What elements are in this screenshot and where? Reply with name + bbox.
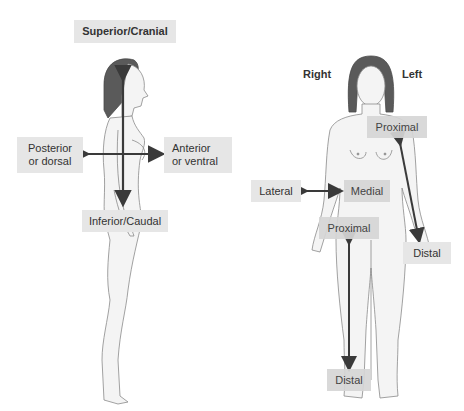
label-text: Proximal <box>376 121 419 134</box>
label-text: Inferior/Caudal <box>89 215 161 228</box>
label-text: or ventral <box>172 155 218 168</box>
side-label-left: Left <box>402 68 422 80</box>
label-proximal-leg: Proximal <box>319 217 379 239</box>
label-text: Distal <box>335 374 363 387</box>
label-text: Posterior <box>28 142 72 155</box>
label-superior-cranial: Superior/Cranial <box>74 20 176 43</box>
anatomy-diagram: Superior/Cranial Posterior or dorsal Ant… <box>0 0 464 411</box>
label-distal-arm: Distal <box>403 242 451 264</box>
arrows-lateral <box>86 78 161 203</box>
label-lateral: Lateral <box>251 180 301 202</box>
label-anterior-ventral: Anterior or ventral <box>164 137 232 173</box>
label-text: Anterior <box>172 142 211 155</box>
label-text: Medial <box>351 185 383 198</box>
figures-illustration <box>0 0 464 411</box>
label-text: Distal <box>413 247 441 260</box>
label-medial: Medial <box>344 180 390 202</box>
label-posterior-dorsal: Posterior or dorsal <box>17 137 83 173</box>
label-distal-leg: Distal <box>327 369 371 391</box>
label-text: Superior/Cranial <box>82 25 168 38</box>
label-proximal-arm: Proximal <box>367 116 427 138</box>
label-text: Proximal <box>328 222 371 235</box>
label-inferior-caudal: Inferior/Caudal <box>82 210 168 232</box>
label-text: Lateral <box>259 185 293 198</box>
side-label-right: Right <box>303 68 331 80</box>
label-text: or dorsal <box>29 155 72 168</box>
